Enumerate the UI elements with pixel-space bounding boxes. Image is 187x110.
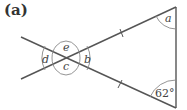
angle-label-c: c <box>63 60 69 73</box>
angle-label-d: d <box>42 53 49 66</box>
angle-label-62: 62° <box>155 87 175 100</box>
angle-label-a: a <box>165 12 172 25</box>
geometry-diagram: a e d c b 62° <box>0 0 187 110</box>
angle-label-e: e <box>63 41 70 54</box>
angle-label-b: b <box>84 53 91 66</box>
